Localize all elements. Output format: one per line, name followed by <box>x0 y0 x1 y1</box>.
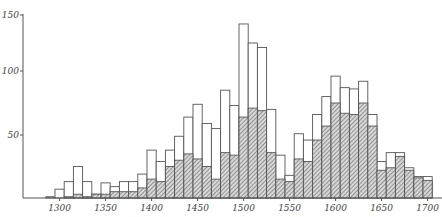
x-axis-ticks: 130013501400145015001550160016501700 <box>48 198 439 213</box>
hatched-bar-1380 <box>129 192 138 198</box>
hatched-bar-1490 <box>230 155 239 198</box>
hatched-bar-1590 <box>322 126 331 198</box>
hatched-bar-1400 <box>147 179 156 198</box>
hatched-bar-1480 <box>221 153 230 198</box>
hatched-bar-1390 <box>138 188 147 198</box>
hatched-bar-1580 <box>313 140 322 198</box>
hatched-bar-1630 <box>359 103 368 198</box>
hatched-bar-1440 <box>184 154 193 198</box>
hatched-bar-1520 <box>257 111 266 198</box>
hatched-bar-1670 <box>395 156 404 198</box>
hatched-bar-1450 <box>193 159 202 198</box>
hatched-bar-1560 <box>294 159 303 198</box>
x-tick-label: 1600 <box>324 203 347 213</box>
x-tick-label: 1550 <box>278 203 301 213</box>
hatched-bar-1320 <box>73 194 82 198</box>
hatched-bar-1530 <box>267 153 276 198</box>
hatched-bar-1370 <box>119 192 128 198</box>
hatched-bar-1340 <box>92 194 101 198</box>
hatched-bar-1470 <box>211 179 220 198</box>
x-tick-label: 1500 <box>232 203 255 213</box>
hatched-bar-1540 <box>276 179 285 198</box>
total-bar-1310 <box>64 182 73 198</box>
hatched-bar-1600 <box>331 103 340 198</box>
hatched-bar-1640 <box>368 126 377 198</box>
y-tick-label: 50 <box>8 130 20 140</box>
hatched-bar-1650 <box>377 170 386 198</box>
hatched-bar-1660 <box>386 168 395 198</box>
x-tick-label: 1700 <box>416 203 439 213</box>
y-tick-label: 100 <box>2 66 19 76</box>
hatched-bar-1410 <box>156 182 165 198</box>
hatched-bar-1570 <box>303 161 312 198</box>
hatched-bar-1420 <box>165 167 174 199</box>
hatched-bar-1500 <box>239 117 248 198</box>
hatched-bar-1510 <box>248 108 257 198</box>
hatched-bar-1610 <box>340 113 349 198</box>
x-tick-label: 1400 <box>140 203 163 213</box>
hatched-bar-1620 <box>349 115 358 198</box>
y-tick-label: 150 <box>2 10 19 20</box>
histogram-chart: 50100150 1300135014001450150015501600165… <box>0 0 442 217</box>
hatched-bar-1700 <box>423 180 432 198</box>
hatched-bar-1360 <box>110 192 119 198</box>
hatched-bar-1690 <box>414 178 423 198</box>
hatched-bar-1350 <box>101 194 110 198</box>
hatched-bar-1430 <box>175 160 184 198</box>
hatched-bar-1460 <box>202 167 211 199</box>
total-bar-1320 <box>73 167 82 199</box>
x-tick-label: 1450 <box>186 203 209 213</box>
x-tick-label: 1300 <box>48 203 71 213</box>
total-bar-1300 <box>55 189 64 198</box>
x-tick-label: 1350 <box>94 203 117 213</box>
x-tick-label: 1650 <box>370 203 393 213</box>
y-axis-ticks: 50100150 <box>2 10 23 140</box>
hatched-bar-1680 <box>405 170 414 198</box>
hatched-bar-1550 <box>285 182 294 198</box>
total-bar-1330 <box>83 182 92 198</box>
